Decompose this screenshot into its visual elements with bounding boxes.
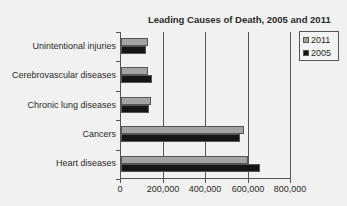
x-tick-label: 0	[117, 184, 122, 194]
x-tick-label: 400,000	[189, 184, 222, 194]
x-tick	[205, 179, 206, 183]
x-tick-label: 600,000	[232, 184, 265, 194]
y-tick	[116, 32, 120, 33]
x-tick	[163, 179, 164, 183]
gridline	[248, 32, 249, 179]
legend-swatch-2011	[303, 37, 309, 43]
legend-item-2011: 2011	[303, 35, 330, 45]
bar-2011-unintentional-injuries	[121, 38, 148, 46]
y-tick	[116, 61, 120, 62]
y-tick	[116, 150, 120, 151]
y-tick	[116, 120, 120, 121]
category-label: Cerebrovascular diseases	[12, 70, 116, 80]
bar-2011-cerebrovascular-diseases	[121, 67, 148, 75]
bar-2005-cancers	[121, 134, 240, 142]
x-tick	[120, 179, 121, 183]
category-label: Cancers	[82, 129, 116, 139]
y-tick	[116, 91, 120, 92]
legend-label: 2005	[311, 48, 331, 58]
bar-2011-heart-diseases	[121, 156, 248, 164]
legend: 2011 2005	[299, 31, 339, 61]
chart-title: Leading Causes of Death, 2005 and 2011	[120, 14, 347, 25]
bar-2005-cerebrovascular-diseases	[121, 75, 152, 83]
category-label: Heart diseases	[56, 158, 116, 168]
x-tick	[248, 179, 249, 183]
x-tick-label: 800,000	[274, 184, 307, 194]
bar-2011-chronic-lung-diseases	[121, 97, 151, 105]
bar-2005-unintentional-injuries	[121, 46, 146, 54]
gridline	[290, 32, 291, 179]
category-label: Chronic lung diseases	[27, 100, 116, 110]
legend-swatch-2005	[303, 50, 309, 56]
category-label: Unintentional injuries	[32, 41, 116, 51]
legend-item-2005: 2005	[303, 48, 331, 58]
bar-2005-heart-diseases	[121, 164, 260, 172]
bar-2005-chronic-lung-diseases	[121, 105, 149, 113]
bar-2011-cancers	[121, 126, 244, 134]
plot-area	[120, 32, 290, 179]
x-tick-label: 200,000	[147, 184, 180, 194]
y-tick	[116, 179, 120, 180]
legend-label: 2011	[311, 35, 330, 45]
x-tick	[290, 179, 291, 183]
